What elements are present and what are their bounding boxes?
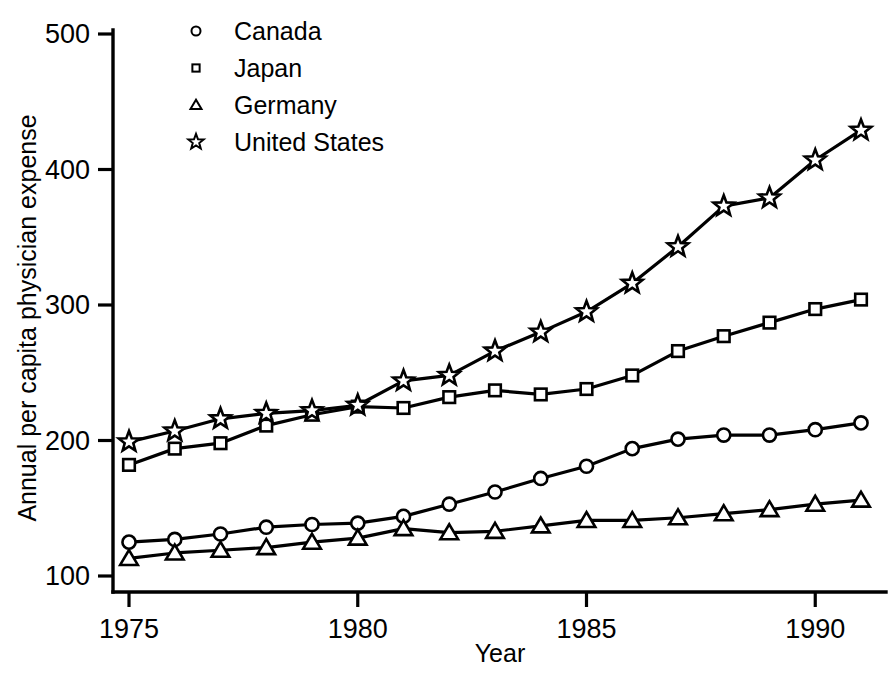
marker-star bbox=[576, 301, 597, 321]
legend-label: Japan bbox=[234, 54, 302, 82]
x-tick-label: 1990 bbox=[785, 614, 845, 644]
marker-star bbox=[485, 340, 506, 360]
marker-square bbox=[123, 459, 135, 471]
marker-circle bbox=[191, 26, 200, 35]
x-axis-ticks: 1975198019851990 bbox=[99, 592, 845, 644]
legend-label: Canada bbox=[234, 17, 322, 45]
circle-icon bbox=[191, 26, 200, 35]
marker-triangle bbox=[190, 100, 201, 109]
marker-star bbox=[210, 408, 231, 428]
marker-star bbox=[393, 370, 414, 390]
marker-circle bbox=[763, 429, 776, 442]
x-tick-label: 1975 bbox=[99, 614, 159, 644]
triangle-icon bbox=[190, 100, 201, 109]
marker-star bbox=[439, 365, 460, 385]
y-axis-ticks: 100200300400500 bbox=[45, 19, 113, 591]
marker-circle bbox=[534, 472, 547, 485]
series-line bbox=[129, 300, 861, 465]
marker-square bbox=[443, 391, 455, 403]
marker-star bbox=[256, 403, 277, 423]
series-germany bbox=[120, 492, 870, 565]
marker-circle bbox=[214, 527, 227, 540]
y-tick-label: 400 bbox=[45, 155, 90, 185]
legend-item-canada: Canada bbox=[191, 17, 321, 45]
marker-square bbox=[489, 385, 501, 397]
x-tick-label: 1980 bbox=[328, 614, 388, 644]
marker-circle bbox=[717, 429, 730, 442]
marker-circle bbox=[854, 416, 867, 429]
chart-legend: CanadaJapanGermanyUnited States bbox=[188, 17, 384, 156]
legend-label: United States bbox=[234, 128, 384, 156]
marker-star bbox=[188, 134, 203, 149]
marker-star bbox=[530, 321, 551, 341]
marker-square bbox=[855, 294, 867, 306]
x-axis-title: Year bbox=[475, 639, 526, 667]
legend-item-germany: Germany bbox=[190, 91, 337, 119]
y-tick-label: 100 bbox=[45, 561, 90, 591]
chart-container: 100200300400500 1975198019851990 CanadaJ… bbox=[0, 0, 890, 676]
x-tick-label: 1985 bbox=[556, 614, 616, 644]
marker-square bbox=[192, 64, 199, 71]
y-tick-label: 200 bbox=[45, 426, 90, 456]
marker-circle bbox=[809, 423, 822, 436]
legend-item-united-states: United States bbox=[188, 128, 384, 156]
line-chart: 100200300400500 1975198019851990 CanadaJ… bbox=[0, 0, 890, 676]
star-icon bbox=[188, 134, 203, 149]
marker-circle bbox=[443, 498, 456, 511]
marker-star bbox=[119, 431, 140, 451]
marker-square bbox=[764, 317, 776, 329]
marker-square bbox=[672, 345, 684, 357]
marker-circle bbox=[580, 460, 593, 473]
marker-star bbox=[164, 420, 185, 440]
marker-circle bbox=[260, 521, 273, 534]
legend-item-japan: Japan bbox=[192, 54, 302, 82]
square-icon bbox=[192, 64, 199, 71]
marker-circle bbox=[626, 442, 639, 455]
marker-square bbox=[718, 330, 730, 342]
marker-circle bbox=[488, 485, 501, 498]
series-layer bbox=[119, 119, 872, 565]
series-united-states bbox=[119, 119, 872, 450]
marker-star bbox=[347, 394, 368, 414]
series-japan bbox=[123, 294, 867, 471]
marker-square bbox=[169, 443, 181, 455]
marker-circle bbox=[671, 433, 684, 446]
marker-square bbox=[809, 303, 821, 315]
marker-square bbox=[398, 402, 410, 414]
y-tick-label: 500 bbox=[45, 19, 90, 49]
marker-square bbox=[215, 437, 227, 449]
marker-circle bbox=[122, 536, 135, 549]
y-tick-label: 300 bbox=[45, 290, 90, 320]
marker-square bbox=[626, 370, 638, 382]
marker-square bbox=[581, 383, 593, 395]
marker-square bbox=[535, 389, 547, 401]
y-axis-title: Annual per capita physician expense bbox=[13, 114, 41, 521]
legend-label: Germany bbox=[234, 91, 337, 119]
marker-circle bbox=[305, 518, 318, 531]
